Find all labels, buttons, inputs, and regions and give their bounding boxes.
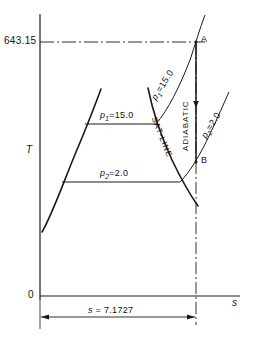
isobar-p2-value: =2.0: [109, 168, 128, 178]
entropy-dimension-label: s = 7.1727: [88, 306, 133, 315]
point-b-marker: [195, 161, 198, 164]
point-b-label: B: [201, 156, 207, 165]
adiabatic-direction-arrow: [193, 101, 199, 108]
y-axis-label: T: [26, 145, 32, 155]
dim-arrow-left: [41, 315, 49, 320]
adiabatic-label: ADIABATIC: [182, 100, 190, 151]
origin-label: 0: [28, 290, 34, 300]
point-a-marker: [195, 41, 198, 44]
isobar-p2-label: p2=2.0: [100, 169, 128, 180]
saturated-vapor-line: [148, 88, 198, 206]
y-tick-label-643: 643.15: [4, 36, 36, 46]
saturated-liquid-line: [42, 89, 101, 232]
isobar-p1-label: p1=15.0: [100, 111, 134, 122]
entropy-dimension-value: = 7.1727: [93, 305, 133, 315]
x-axis-label: s: [232, 298, 237, 308]
dim-arrow-right: [187, 315, 195, 320]
point-a-label: A: [201, 35, 207, 44]
isobar-p1-value: =15.0: [109, 110, 133, 120]
ts-diagram: 643.15 0 T s A B p1=15.0 p2=2.0 p1=15.0 …: [0, 0, 254, 348]
